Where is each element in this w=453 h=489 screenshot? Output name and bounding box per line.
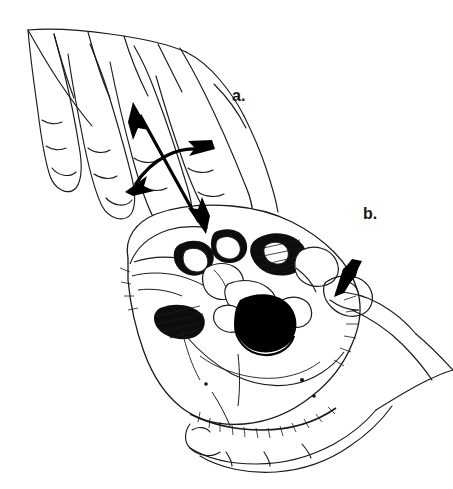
choana-left xyxy=(183,248,208,272)
figure-label-b: b. xyxy=(363,206,377,222)
figure-label-a: a. xyxy=(232,88,245,104)
mastoid-foramen-mark xyxy=(300,378,304,382)
figure-root: a. b. xyxy=(0,0,453,489)
choana-right xyxy=(216,236,241,259)
parietal-foramen-mark xyxy=(312,394,316,398)
condylar-foramen-mark xyxy=(204,382,208,386)
skull-palpation-illustration xyxy=(0,0,453,489)
